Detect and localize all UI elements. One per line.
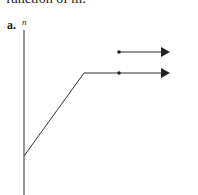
lower-dot xyxy=(117,71,121,75)
upper-dot xyxy=(117,50,121,54)
rising-line xyxy=(24,73,119,156)
upper-arrowhead-icon xyxy=(161,47,170,57)
diagram-canvas xyxy=(0,0,198,195)
lower-arrowhead-icon xyxy=(161,68,170,78)
